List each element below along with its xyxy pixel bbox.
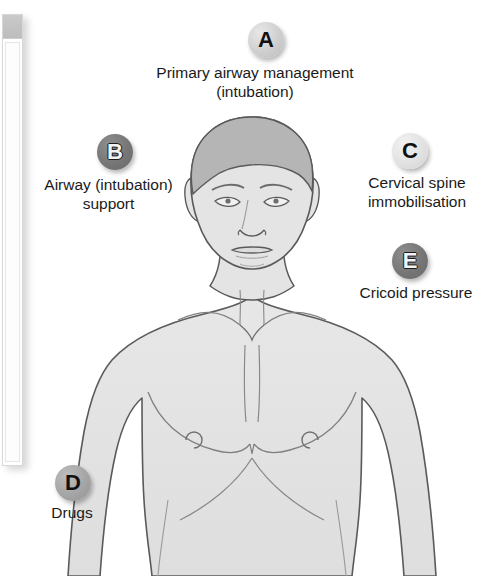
pupil-right <box>273 198 278 203</box>
callout-label-e: Cricoid pressure <box>334 283 498 302</box>
screenshot-root: A Primary airway management (intubation)… <box>0 0 498 576</box>
callout-badge-e-label: E <box>403 250 418 272</box>
mouth-line <box>232 247 272 253</box>
callout-badge-a-label: A <box>258 29 274 51</box>
callout-badge-c[interactable]: C <box>392 133 428 169</box>
callout-badge-e[interactable]: E <box>392 243 428 279</box>
callout-label-d: Drugs <box>22 503 122 522</box>
callout-badge-b[interactable]: B <box>97 134 133 170</box>
callout-badge-d[interactable]: D <box>55 465 91 501</box>
callout-badge-a[interactable]: A <box>248 22 284 58</box>
callout-badge-c-label: C <box>402 140 418 162</box>
callout-badge-d-label: D <box>65 472 81 494</box>
callout-label-c: Cervical spine immobilisation <box>336 173 498 211</box>
callout-badge-b-label: B <box>107 141 123 163</box>
callout-label-b: Airway (intubation) support <box>16 175 201 213</box>
callout-label-a: Primary airway management (intubation) <box>129 63 381 101</box>
head-group <box>185 117 319 269</box>
torso-shape <box>68 262 436 576</box>
pupil-left <box>225 198 230 203</box>
